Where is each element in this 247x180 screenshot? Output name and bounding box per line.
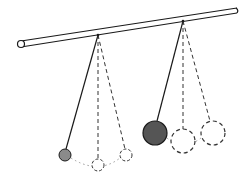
small-ghost-bob-right [120, 149, 132, 161]
large-pendulum [143, 21, 225, 153]
large-pivot-point [182, 20, 185, 23]
small-pendulum-bob [59, 149, 71, 161]
large-pendulum-string [157, 21, 183, 121]
small-pendulum [59, 35, 132, 171]
pendulum-diagram: Two pendulums of different mass hanging … [0, 0, 247, 180]
small-pivot-point [97, 34, 100, 37]
large-pendulum-bob [143, 121, 167, 145]
large-ghost-bob-center [171, 129, 195, 153]
small-pendulum-ghost-string-right [98, 35, 125, 149]
large-ghost-bob-right [201, 121, 225, 145]
large-pendulum-ghost-string-right [183, 21, 210, 121]
horizontal-rod [18, 8, 238, 48]
small-ghost-bob-center [92, 159, 104, 171]
small-pendulum-string [66, 35, 98, 149]
